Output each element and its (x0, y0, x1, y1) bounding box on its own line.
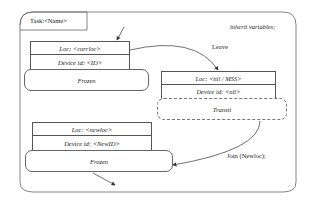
inherit-variables-label: inherit variables; (230, 24, 275, 31)
initial-arrow (117, 27, 124, 40)
state3-loc-cell: Loc: <newloc> (32, 122, 152, 136)
state2-loc-cell: Loc: <nil / MSS> (161, 71, 276, 85)
state3-device-cell: Device id: <NewID> (32, 135, 152, 151)
state3-frozen: Frozen (25, 150, 173, 172)
join-transition-label: Join (Newloc); (227, 153, 266, 160)
exit-arrow (93, 173, 115, 185)
leave-transition-label: Leave (212, 44, 228, 51)
state2-transit: Transit (157, 98, 287, 120)
state1-loc-cell: Loc: <currloc> (30, 41, 130, 55)
state2-device-cell: Device id: <nil> (161, 84, 276, 99)
state1-device-cell: Device id: <ID> (30, 54, 130, 70)
leave-arrow (130, 46, 218, 71)
state1-frozen: Frozen (24, 69, 149, 91)
task-name-label: Task:<Name> (30, 18, 67, 25)
